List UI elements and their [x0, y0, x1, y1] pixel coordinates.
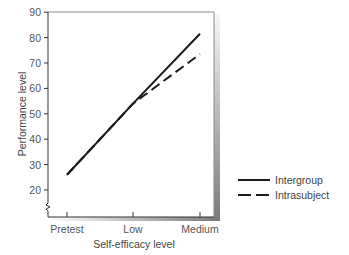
x-tick-label: Medium	[181, 223, 219, 235]
legend-label: Intergroup	[275, 174, 323, 186]
frame-shadow-right	[214, 14, 220, 221]
y-axis-title: Performance level	[16, 72, 28, 157]
legend-item-intrasubject: Intrasubject	[238, 189, 329, 201]
y-tick-label: 60	[29, 82, 41, 94]
y-axis-ticks: 2030405060708090	[29, 6, 48, 196]
frame-shadow-bottom	[48, 217, 220, 221]
y-tick-label: 50	[29, 108, 41, 120]
legend-item-intergroup: Intergroup	[238, 174, 323, 186]
x-axis-title: Self-efficacy level	[93, 238, 175, 250]
performance-line-chart: 2030405060708090 PretestLowMedium Perfor…	[0, 0, 349, 255]
x-tick-label: Low	[123, 223, 143, 235]
plot-frame	[46, 12, 220, 221]
y-tick-label: 20	[29, 184, 41, 196]
x-axis-ticks: PretestLowMedium	[50, 212, 219, 235]
legend-label: Intrasubject	[275, 189, 329, 201]
legend: Intergroup Intrasubject	[238, 174, 329, 201]
y-tick-label: 40	[29, 133, 41, 145]
y-tick-label: 70	[29, 57, 41, 69]
series-line-intrasubject	[67, 54, 200, 175]
series-lines	[67, 34, 200, 175]
y-axis-line	[46, 12, 50, 217]
y-tick-label: 30	[29, 159, 41, 171]
x-tick-label: Pretest	[50, 223, 83, 235]
y-tick-label: 80	[29, 32, 41, 44]
y-tick-label: 90	[29, 6, 41, 18]
